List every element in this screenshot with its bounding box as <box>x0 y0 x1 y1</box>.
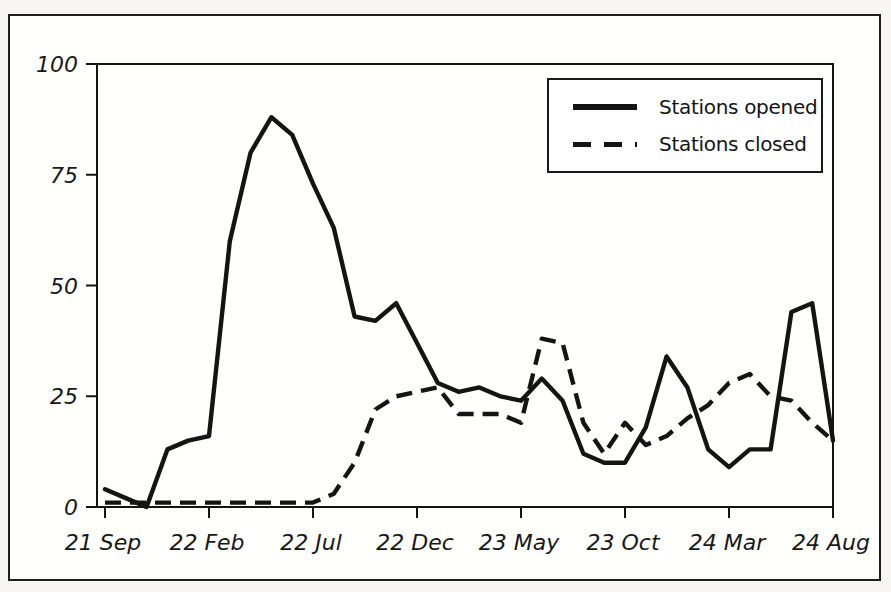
legend-entry-opened: Stations opened <box>573 95 821 119</box>
x-tick-label-0: 21 Sep <box>65 530 141 555</box>
legend-label-opened: Stations opened <box>659 95 817 119</box>
x-tick-label-20: 23 May <box>479 530 560 555</box>
y-tick-label-0: 0 <box>64 495 78 520</box>
series-line-dashed <box>105 339 833 503</box>
series-line-solid <box>105 117 833 507</box>
y-tick-label-100: 100 <box>36 52 78 77</box>
y-tick-label-50: 50 <box>50 274 78 299</box>
y-tick-label-25: 25 <box>50 384 78 409</box>
x-tick-label-25: 23 Oct <box>586 530 660 555</box>
legend-label-closed: Stations closed <box>659 132 807 156</box>
x-tick-label-30: 24 Mar <box>689 530 767 555</box>
x-tick-label-15: 22 Dec <box>376 530 454 555</box>
dashed-line-sample <box>573 142 637 147</box>
legend-entry-closed: Stations closed <box>573 132 821 156</box>
legend-box: Stations opened Stations closed <box>547 78 823 173</box>
x-tick-label-35: 24 Aug <box>792 530 870 555</box>
y-tick-label-75: 75 <box>50 163 78 188</box>
x-tick-label-5: 22 Feb <box>169 530 244 555</box>
x-tick-label-10: 22 Jul <box>280 530 342 555</box>
solid-line-sample <box>573 104 637 110</box>
